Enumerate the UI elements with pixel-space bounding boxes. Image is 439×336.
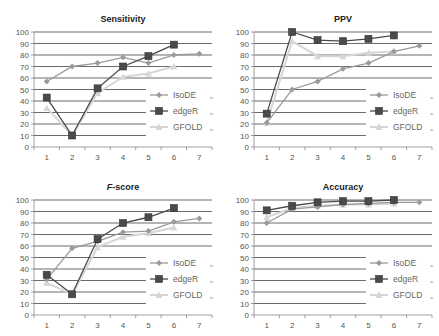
legend-label: edgeR <box>393 274 418 284</box>
y-tick-label: 60 <box>240 74 249 83</box>
x-tick-label: 6 <box>172 153 177 162</box>
y-tick-label: 100 <box>16 28 30 37</box>
triangle-marker-icon <box>43 104 50 111</box>
chart-f-score: F-score01020304050607080901001234567IsoD… <box>0 168 219 336</box>
x-tick-label: 6 <box>392 321 397 330</box>
legend-label: GFOLD <box>173 122 202 132</box>
square-marker-icon <box>43 271 50 278</box>
square-marker-icon <box>156 108 163 115</box>
diamond-marker-icon <box>44 78 50 84</box>
y-tick-label: 70 <box>240 231 249 240</box>
y-tick-label: 0 <box>25 311 30 320</box>
y-tick-label: 40 <box>20 265 29 274</box>
x-tick-label: 3 <box>95 321 100 330</box>
diamond-marker-icon <box>145 60 151 66</box>
y-tick-label: 10 <box>240 300 249 309</box>
square-marker-icon <box>340 198 347 205</box>
square-marker-icon <box>376 108 383 115</box>
x-tick-label: 1 <box>264 321 269 330</box>
legend-label: edgeR <box>173 274 198 284</box>
y-tick-label: 70 <box>240 63 249 72</box>
y-tick-label: 30 <box>20 277 29 286</box>
x-tick-label: 6 <box>172 321 177 330</box>
legend-label: GFOLD <box>393 290 422 300</box>
y-tick-label: 70 <box>20 63 29 72</box>
square-marker-icon <box>170 205 177 212</box>
y-tick-label: 40 <box>240 97 249 106</box>
x-tick-label: 5 <box>146 321 151 330</box>
x-tick-label: 6 <box>392 153 397 162</box>
square-marker-icon <box>314 199 321 206</box>
x-tick-label: 5 <box>366 153 371 162</box>
square-marker-icon <box>156 276 163 283</box>
diamond-marker-icon <box>365 60 371 66</box>
square-marker-icon <box>390 197 397 204</box>
y-tick-label: 40 <box>240 265 249 274</box>
y-tick-label: 20 <box>240 120 249 129</box>
diamond-marker-icon <box>264 220 270 226</box>
square-marker-icon <box>69 132 76 139</box>
chart-svg: F-score01020304050607080901001234567IsoD… <box>0 168 219 336</box>
x-tick-label: 1 <box>264 153 269 162</box>
y-tick-label: 90 <box>240 208 249 217</box>
y-tick-label: 90 <box>240 40 249 49</box>
x-tick-label: 5 <box>146 153 151 162</box>
square-marker-icon <box>94 236 101 243</box>
y-tick-label: 10 <box>240 132 249 141</box>
chart-accuracy: Accuracy01020304050607080901001234567Iso… <box>220 168 439 336</box>
x-tick-label: 7 <box>197 153 202 162</box>
square-marker-icon <box>69 291 76 298</box>
y-tick-label: 30 <box>240 277 249 286</box>
square-marker-icon <box>376 276 383 283</box>
square-marker-icon <box>365 198 372 205</box>
x-tick-label: 4 <box>121 321 126 330</box>
square-marker-icon <box>43 94 50 101</box>
square-marker-icon <box>289 29 296 36</box>
y-tick-label: 0 <box>245 311 250 320</box>
x-tick-label: 3 <box>315 153 320 162</box>
square-marker-icon <box>120 220 127 227</box>
x-tick-label: 7 <box>197 321 202 330</box>
y-tick-label: 30 <box>240 109 249 118</box>
chart-ppv: PPV01020304050607080901001234567IsoDEedg… <box>220 0 439 168</box>
square-marker-icon <box>170 41 177 48</box>
x-tick-label: 1 <box>44 321 49 330</box>
square-marker-icon <box>340 38 347 45</box>
x-tick-label: 2 <box>290 321 295 330</box>
legend-label: GFOLD <box>393 122 422 132</box>
legend-label: IsoDE <box>173 258 196 268</box>
legend-label: IsoDE <box>173 90 196 100</box>
y-tick-label: 50 <box>240 254 249 263</box>
y-tick-label: 80 <box>240 219 249 228</box>
y-tick-label: 60 <box>240 242 249 251</box>
y-tick-label: 60 <box>20 242 29 251</box>
x-tick-label: 1 <box>44 153 49 162</box>
y-tick-label: 70 <box>20 231 29 240</box>
legend-label: GFOLD <box>173 290 202 300</box>
square-marker-icon <box>390 32 397 39</box>
x-tick-label: 2 <box>70 321 75 330</box>
square-marker-icon <box>365 35 372 42</box>
x-tick-label: 3 <box>315 321 320 330</box>
diamond-marker-icon <box>196 51 202 57</box>
y-tick-label: 60 <box>20 74 29 83</box>
y-tick-label: 10 <box>20 132 29 141</box>
legend-label: IsoDE <box>393 90 416 100</box>
y-tick-label: 80 <box>20 219 29 228</box>
y-tick-label: 40 <box>20 97 29 106</box>
y-tick-label: 20 <box>20 120 29 129</box>
x-tick-label: 2 <box>290 153 295 162</box>
y-tick-label: 80 <box>20 51 29 60</box>
y-tick-label: 80 <box>240 51 249 60</box>
chart-title: Sensitivity <box>100 14 145 24</box>
diamond-marker-icon <box>95 60 101 66</box>
square-marker-icon <box>289 202 296 209</box>
y-tick-label: 90 <box>20 40 29 49</box>
legend-label: edgeR <box>393 106 418 116</box>
square-marker-icon <box>145 53 152 60</box>
diamond-marker-icon <box>171 219 177 225</box>
x-tick-label: 5 <box>366 321 371 330</box>
x-tick-label: 7 <box>417 153 422 162</box>
chart-title: PPV <box>334 14 352 24</box>
square-marker-icon <box>263 110 270 117</box>
